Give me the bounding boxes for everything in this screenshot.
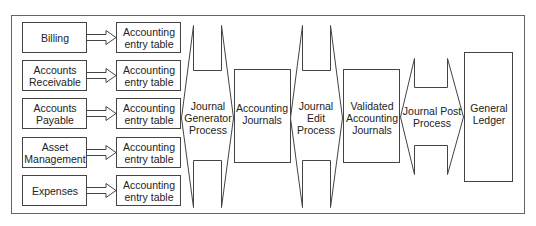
source-box-accounts-payable [23,99,87,129]
source-box-asset-management [23,138,87,168]
source-box-accounts-receivable [23,61,87,91]
entry-table-box [117,61,181,91]
entry-table-box [117,23,181,53]
arrow-icon [87,184,116,198]
process-shape-journal-generator [182,26,234,208]
store-box-accounting-journals [235,70,291,163]
process-shape-journal-edit [291,26,343,208]
entry-table-box [117,99,181,129]
arrow-icon [87,31,116,45]
source-box-expenses [23,176,87,206]
store-box-validated-journals [344,70,400,163]
arrow-icon [87,69,116,83]
entry-table-box [117,138,181,168]
store-box-general-ledger [465,53,513,182]
source-box-billing [23,23,87,53]
process-shape-journal-post [401,59,464,175]
accounting-flow-diagram [0,0,536,226]
arrow-icon [87,107,116,121]
arrow-icon [87,146,116,160]
entry-table-box [117,176,181,206]
